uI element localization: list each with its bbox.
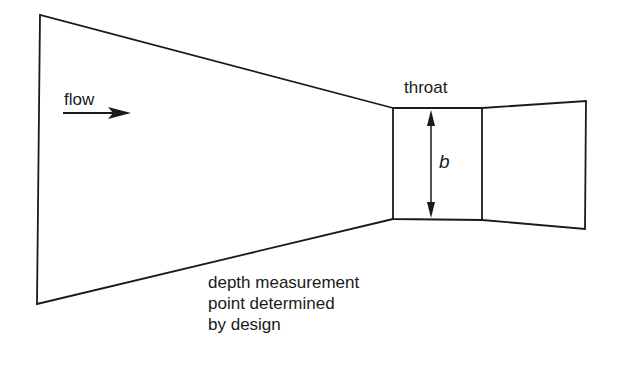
throat-section [393, 108, 482, 220]
depth-note-line-1: depth measurement [208, 273, 359, 292]
depth-note-line-3: by design [208, 315, 281, 334]
converging-section [37, 15, 393, 304]
depth-note-line-2: point determined [208, 294, 335, 313]
diverging-section [482, 101, 586, 229]
throat-width-arrow-icon [427, 110, 435, 218]
flow-label: flow [64, 90, 94, 109]
throat-label: throat [404, 78, 447, 97]
throat-width-label: b [439, 152, 450, 171]
